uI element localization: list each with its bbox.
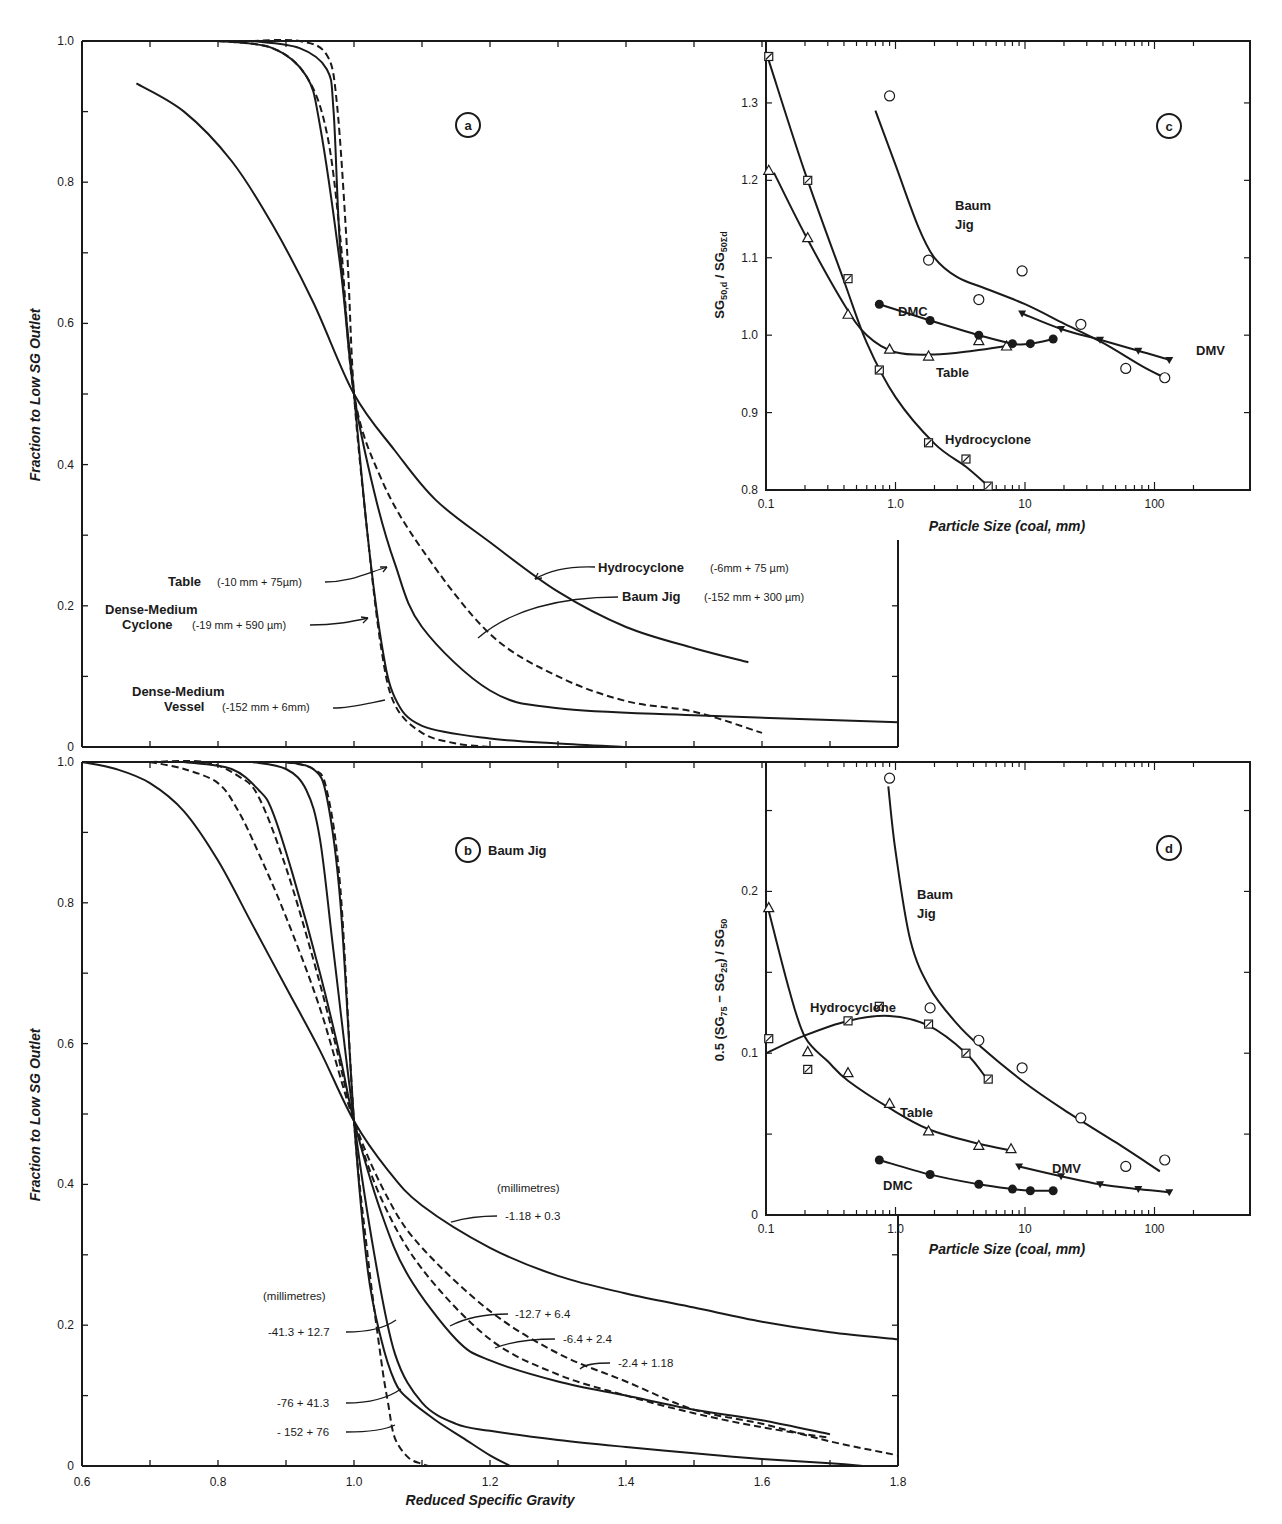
svg-text:0.1: 0.1 bbox=[758, 1222, 775, 1236]
svg-text:0: 0 bbox=[751, 1208, 758, 1222]
figure: 00.20.40.60.81.0 Fraction to Low SG Outl… bbox=[0, 0, 1282, 1524]
svg-text:-2.4 + 1.18: -2.4 + 1.18 bbox=[618, 1357, 673, 1369]
panel-b-ylabel: Fraction to Low SG Outlet bbox=[27, 1027, 43, 1201]
label-c-jig: Jig bbox=[955, 217, 974, 232]
svg-text:Baum Jig: Baum Jig bbox=[488, 843, 547, 858]
panel-c-xlabel: Particle Size (coal, mm) bbox=[929, 518, 1086, 534]
svg-text:0.2: 0.2 bbox=[741, 884, 758, 898]
label-d-jig: Jig bbox=[917, 906, 936, 921]
svg-text:c: c bbox=[1165, 119, 1172, 134]
annotation-b-2: -12.7 + 6.4 bbox=[450, 1308, 571, 1326]
svg-text:1.2: 1.2 bbox=[741, 173, 758, 187]
svg-text:Table: Table bbox=[168, 574, 201, 589]
svg-text:a: a bbox=[464, 118, 472, 133]
svg-text:(-152 mm + 6mm): (-152 mm + 6mm) bbox=[222, 701, 310, 713]
panel-d-xlabel: Particle Size (coal, mm) bbox=[929, 1241, 1086, 1257]
annotation-hydrocyclone: Hydrocyclone (-6mm + 75 µm) bbox=[535, 560, 789, 579]
label-c-baum: Baum bbox=[955, 198, 991, 213]
svg-text:0.6: 0.6 bbox=[74, 1475, 91, 1489]
panel-b-curves bbox=[82, 761, 898, 1466]
svg-text:1.0: 1.0 bbox=[346, 1475, 363, 1489]
svg-text:1.4: 1.4 bbox=[618, 1475, 635, 1489]
panel-d-ylabel: 0.5 (SG75 − SG25) / SG50 bbox=[712, 919, 729, 1061]
label-d-baum: Baum bbox=[917, 887, 953, 902]
svg-text:1.8: 1.8 bbox=[890, 1475, 907, 1489]
panel-b-chart: 00.20.40.60.81.00.60.81.01.21.41.61.8 Fr… bbox=[27, 755, 907, 1508]
annotation-dense-medium-vessel: Dense-Medium Vessel (-152 mm + 6mm) bbox=[132, 684, 385, 714]
curve--41-3-12-7 bbox=[252, 762, 864, 1466]
svg-text:(-10 mm + 75µm): (-10 mm + 75µm) bbox=[217, 576, 302, 588]
svg-text:Vessel: Vessel bbox=[164, 699, 205, 714]
label-c-dmc: DMC bbox=[898, 304, 928, 319]
svg-text:0.1: 0.1 bbox=[741, 1046, 758, 1060]
svg-text:0.8: 0.8 bbox=[57, 175, 74, 189]
svg-text:0.4: 0.4 bbox=[57, 1177, 74, 1191]
svg-text:1.0: 1.0 bbox=[57, 34, 74, 48]
label-d-table: Table bbox=[900, 1105, 933, 1120]
svg-text:0.4: 0.4 bbox=[57, 458, 74, 472]
svg-text:0.2: 0.2 bbox=[57, 599, 74, 613]
svg-text:Baum Jig: Baum Jig bbox=[622, 589, 681, 604]
annotation-b-3: -6.4 + 2.4 bbox=[495, 1333, 613, 1348]
svg-text:0.5 (SG75 − SG25) / SG50: 0.5 (SG75 − SG25) / SG50 bbox=[712, 919, 729, 1061]
svg-text:-6.4 + 2.4: -6.4 + 2.4 bbox=[563, 1333, 613, 1345]
annotation-dense-medium-cyclone: Dense-Medium Cyclone (-19 mm + 590 µm) bbox=[105, 602, 368, 632]
svg-text:0.1: 0.1 bbox=[758, 497, 775, 511]
svg-text:0.8: 0.8 bbox=[210, 1475, 227, 1489]
svg-text:b: b bbox=[464, 843, 472, 858]
label-c-dmv: DMV bbox=[1196, 343, 1225, 358]
svg-text:Dense-Medium: Dense-Medium bbox=[132, 684, 224, 699]
svg-text:0: 0 bbox=[67, 1459, 74, 1473]
curve--6-4-2-4 bbox=[150, 761, 830, 1438]
svg-text:1.0: 1.0 bbox=[741, 328, 758, 342]
svg-text:1.3: 1.3 bbox=[741, 96, 758, 110]
svg-text:100: 100 bbox=[1144, 1222, 1164, 1236]
units-note-left: (millimetres) bbox=[263, 1290, 326, 1302]
panel-d-chart: 0.11.01010000.10.2 0.5 (SG75 − SG25) / S… bbox=[712, 762, 1250, 1257]
svg-text:0.8: 0.8 bbox=[741, 483, 758, 497]
svg-text:100: 100 bbox=[1144, 497, 1164, 511]
label-d-hydrocyclone: Hydrocyclone bbox=[810, 1000, 896, 1015]
svg-text:0.6: 0.6 bbox=[57, 1037, 74, 1051]
panel-a-ylabel: Fraction to Low SG Outlet bbox=[27, 307, 43, 481]
svg-text:1.6: 1.6 bbox=[754, 1475, 771, 1489]
annotation-baum-jig: Baum Jig (-152 mm + 300 µm) bbox=[478, 589, 804, 638]
svg-text:1.2: 1.2 bbox=[482, 1475, 499, 1489]
annotation-b-4: -2.4 + 1.18 bbox=[580, 1357, 673, 1369]
annotation-table: Table (-10 mm + 75µm) bbox=[168, 567, 387, 589]
curve-dense-medium-cyclone bbox=[252, 41, 626, 747]
panel-d-axes: 0.11.01010000.10.2 bbox=[741, 762, 1250, 1236]
panel-c-ylabel: SG50,d / SG50Σd bbox=[712, 231, 729, 318]
units-note-top: (millimetres) bbox=[497, 1182, 560, 1194]
panel-b-xlabel: Reduced Specific Gravity bbox=[406, 1492, 576, 1508]
svg-text:- 152 + 76: - 152 + 76 bbox=[277, 1426, 329, 1438]
svg-text:1.0: 1.0 bbox=[887, 1222, 904, 1236]
label-c-table: Table bbox=[936, 365, 969, 380]
svg-text:1.0: 1.0 bbox=[887, 497, 904, 511]
svg-text:-1.18 + 0.3: -1.18 + 0.3 bbox=[505, 1210, 560, 1222]
curve--152-76 bbox=[286, 762, 429, 1466]
panel-b-label-badge: b Baum Jig bbox=[456, 838, 547, 862]
svg-text:10: 10 bbox=[1018, 497, 1032, 511]
curve-dense-medium-vessel bbox=[252, 40, 490, 747]
label-c-hydrocyclone: Hydrocyclone bbox=[945, 432, 1031, 447]
svg-text:0.8: 0.8 bbox=[57, 896, 74, 910]
panel-b-axes: 00.20.40.60.81.00.60.81.01.21.41.61.8 bbox=[57, 755, 906, 1489]
label-d-dmc: DMC bbox=[883, 1178, 913, 1193]
svg-text:1.0: 1.0 bbox=[57, 755, 74, 769]
svg-text:0.9: 0.9 bbox=[741, 406, 758, 420]
annotation-b-6: -76 + 41.3 bbox=[277, 1389, 401, 1409]
label-d-dmv: DMV bbox=[1052, 1161, 1081, 1176]
svg-text:(-6mm + 75 µm): (-6mm + 75 µm) bbox=[710, 562, 789, 574]
curve--2-4-1-18 bbox=[150, 762, 898, 1455]
svg-text:-41.3 + 12.7: -41.3 + 12.7 bbox=[268, 1326, 330, 1338]
svg-text:-12.7 + 6.4: -12.7 + 6.4 bbox=[515, 1308, 571, 1320]
panel-a-label-badge: a bbox=[456, 113, 480, 137]
svg-text:0: 0 bbox=[67, 740, 74, 754]
svg-text:10: 10 bbox=[1018, 1222, 1032, 1236]
panel-d-label-badge: d bbox=[1157, 836, 1181, 860]
svg-text:Hydrocyclone: Hydrocyclone bbox=[598, 560, 684, 575]
svg-text:(-152 mm + 300 µm): (-152 mm + 300 µm) bbox=[704, 591, 804, 603]
panel-d-curves bbox=[764, 773, 1174, 1196]
svg-text:0.2: 0.2 bbox=[57, 1318, 74, 1332]
